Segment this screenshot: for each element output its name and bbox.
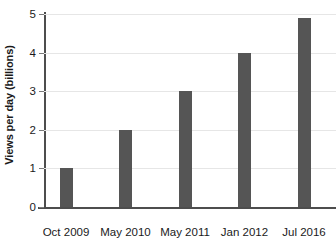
y-tick-label: 2 [30,124,36,136]
x-tick-label: Jan 2012 [221,226,268,238]
y-tick-mark [39,130,44,131]
x-axis-line [38,207,336,209]
gridline [44,14,336,15]
y-tick-label: 1 [30,162,36,174]
y-tick-mark [39,207,44,208]
x-tick-label: May 2011 [160,226,210,238]
bar [119,130,132,207]
y-tick-label: 0 [30,201,36,213]
x-tick-label: Oct 2009 [43,226,90,238]
bar [60,168,73,207]
gridline [44,53,336,54]
y-tick-mark [39,91,44,92]
bar [179,91,192,207]
y-tick-label: 4 [30,47,36,59]
y-axis-title-text: Views per day (billions) [3,45,15,165]
y-tick-label: 3 [30,85,36,97]
y-axis-title: Views per day (billions) [0,0,18,210]
plot-area: 012345 Oct 2009May 2010May 2011Jan 2012J… [44,14,336,207]
bar [238,53,251,207]
x-tick-label: May 2010 [100,226,151,238]
y-tick-mark [39,14,44,15]
x-tick-label: Jul 2016 [282,226,325,238]
y-tick-mark [39,53,44,54]
bar-chart: Views per day (billions) 012345 Oct 2009… [0,0,336,242]
bar [298,18,311,207]
y-tick-label: 5 [30,8,36,20]
y-tick-mark [39,168,44,169]
